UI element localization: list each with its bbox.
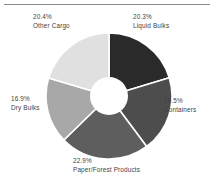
slice-name-liquid-bulks: Liquid Bulks	[133, 21, 169, 30]
slice-label-other-cargo: 20.4% Other Cargo	[33, 12, 70, 31]
slice-name-paper-forest-products: Paper/Forest Products	[73, 165, 140, 174]
slice-label-dry-bulks: 16.9% Dry Bulks	[11, 94, 40, 113]
pie-chart-figure: 20.4% Other Cargo 20.3% Liquid Bulks 19.…	[0, 0, 214, 185]
slice-percent-containers: 19.5%	[164, 96, 196, 105]
donut-hole	[90, 77, 128, 115]
slice-name-other-cargo: Other Cargo	[33, 21, 70, 30]
top-divider-rule	[4, 4, 210, 5]
slice-label-containers: 19.5% Containers	[164, 96, 196, 115]
slice-name-containers: Containers	[164, 105, 196, 114]
slice-percent-other-cargo: 20.4%	[33, 12, 70, 21]
slice-label-liquid-bulks: 20.3% Liquid Bulks	[133, 12, 169, 31]
slice-percent-dry-bulks: 16.9%	[11, 94, 40, 103]
slice-name-dry-bulks: Dry Bulks	[11, 103, 40, 112]
slice-percent-liquid-bulks: 20.3%	[133, 12, 169, 21]
slice-percent-paper-forest-products: 22.9%	[73, 156, 140, 165]
slice-label-paper-forest-products: 22.9% Paper/Forest Products	[73, 156, 140, 175]
donut-chart	[46, 33, 172, 159]
donut-svg	[46, 33, 172, 159]
